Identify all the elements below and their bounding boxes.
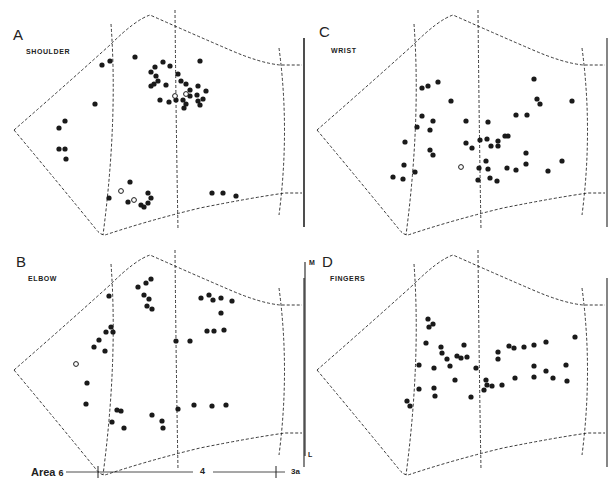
panel-c-sites <box>390 76 574 183</box>
filled-site-dot <box>513 167 518 172</box>
filled-site-dot <box>175 71 180 76</box>
filled-site-dot <box>159 418 164 423</box>
area-6-number: 6 <box>59 468 64 478</box>
area-3a-label: 3a <box>291 467 300 476</box>
area-scale-bar <box>66 466 285 478</box>
filled-site-dot <box>423 340 428 345</box>
filled-site-dot <box>477 137 482 142</box>
filled-site-dot <box>135 284 140 289</box>
filled-site-dot <box>430 118 435 123</box>
filled-site-dot <box>200 96 205 101</box>
filled-site-dot <box>144 303 149 308</box>
filled-site-dot <box>103 329 108 334</box>
filled-site-dot <box>56 125 61 130</box>
filled-site-dot <box>181 105 186 110</box>
filled-site-dot <box>537 101 542 106</box>
filled-site-dot <box>432 393 437 398</box>
filled-site-dot <box>430 321 435 326</box>
panel-a-letter: A <box>13 26 23 43</box>
filled-site-dot <box>204 328 209 333</box>
filled-site-dot <box>109 419 114 424</box>
panel-b-name: ELBOW <box>28 275 57 282</box>
filled-site-dot <box>444 356 449 361</box>
filled-site-dot <box>400 176 405 181</box>
open-site-dot <box>184 92 189 97</box>
filled-site-dot <box>91 344 96 349</box>
filled-site-dot <box>531 374 536 379</box>
filled-site-dot <box>223 402 228 407</box>
filled-site-dot <box>407 403 412 408</box>
panel-c-outline <box>304 10 607 235</box>
filled-site-dot <box>414 124 419 129</box>
filled-site-dot <box>83 401 88 406</box>
filled-site-dot <box>62 146 67 151</box>
open-site-dot <box>173 94 178 99</box>
panel-b-letter: B <box>16 253 26 270</box>
area-prefix: Area <box>31 466 55 478</box>
filled-site-dot <box>229 298 234 303</box>
filled-site-dot <box>523 150 528 155</box>
filled-site-dot <box>220 190 225 195</box>
filled-site-dot <box>464 354 469 359</box>
filled-site-dot <box>524 112 529 117</box>
filled-site-dot <box>157 97 162 102</box>
filled-site-dot <box>458 355 463 360</box>
filled-site-dot <box>206 292 211 297</box>
filled-site-dot <box>425 83 430 88</box>
panel-b-sites <box>74 276 235 430</box>
open-site-dot <box>74 362 79 367</box>
recording-sites <box>56 54 577 430</box>
filled-site-dot <box>106 195 111 200</box>
filled-site-dot <box>163 82 168 87</box>
filled-site-dot <box>195 83 200 88</box>
filled-site-dot <box>504 165 509 170</box>
filled-site-dot <box>412 169 417 174</box>
filled-site-dot <box>167 63 172 68</box>
panel-d-sites <box>404 316 577 408</box>
filled-site-dot <box>439 350 444 355</box>
filled-site-dot <box>550 375 555 380</box>
filled-site-dot <box>419 113 424 118</box>
filled-site-dot <box>218 310 223 315</box>
filled-site-dot <box>484 382 489 387</box>
filled-site-dot <box>160 59 165 64</box>
filled-site-dot <box>141 292 146 297</box>
filled-site-dot <box>427 147 432 152</box>
filled-site-dot <box>531 363 536 368</box>
filled-site-dot <box>521 344 526 349</box>
filled-site-dot <box>183 81 188 86</box>
filled-site-dot <box>485 119 490 124</box>
filled-site-dot <box>438 344 443 349</box>
filled-site-dot <box>511 345 516 350</box>
filled-site-dot <box>416 386 421 391</box>
filled-site-dot <box>402 139 407 144</box>
area-6-label: Area 6 <box>31 466 64 478</box>
filled-site-dot <box>149 306 154 311</box>
filled-site-dot <box>483 158 488 163</box>
panel-d-letter: D <box>322 253 333 270</box>
medial-label: M <box>309 259 315 266</box>
filled-site-dot <box>148 195 153 200</box>
panel-c-name: WRIST <box>331 47 357 54</box>
filled-site-dot <box>435 79 440 84</box>
filled-site-dot <box>468 394 473 399</box>
filled-site-dot <box>209 190 214 195</box>
filled-site-dot <box>187 338 192 343</box>
filled-site-dot <box>209 403 214 408</box>
filled-site-dot <box>187 87 192 92</box>
filled-site-dot <box>495 349 500 354</box>
filled-site-dot <box>146 296 151 301</box>
filled-site-dot <box>506 343 511 348</box>
filled-site-dot <box>218 295 223 300</box>
filled-site-dot <box>125 199 130 204</box>
filled-site-dot <box>149 412 154 417</box>
filled-site-dot <box>481 387 486 392</box>
filled-site-dot <box>197 102 202 107</box>
filled-site-dot <box>499 382 504 387</box>
filled-site-dot <box>485 166 490 171</box>
filled-site-dot <box>160 425 165 430</box>
filled-site-dot <box>110 329 115 334</box>
filled-site-dot <box>106 293 111 298</box>
filled-site-dot <box>166 99 171 104</box>
filled-site-dot <box>127 179 132 184</box>
